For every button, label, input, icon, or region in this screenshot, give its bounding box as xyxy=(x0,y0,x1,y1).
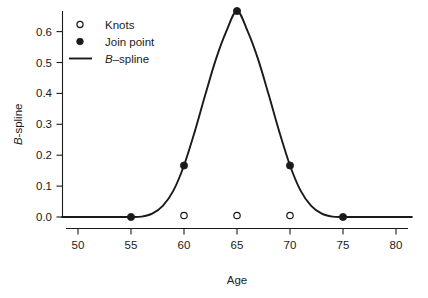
legend-filled-circle-icon xyxy=(77,38,84,45)
knot-marker xyxy=(181,212,187,218)
knot-markers xyxy=(181,212,293,218)
knot-marker xyxy=(234,212,240,218)
bspline-chart: 0.0 0.1 0.2 0.3 0.4 0.5 0.6 50 55 60 65 … xyxy=(0,0,428,298)
y-axis-title-rest: -spline xyxy=(12,104,24,138)
join-point-marker xyxy=(127,213,134,220)
x-tick-label: 75 xyxy=(337,239,350,251)
legend-bspline-rest: –spline xyxy=(113,53,149,65)
legend-label-knots: Knots xyxy=(105,19,135,31)
x-tick-label: 65 xyxy=(231,239,244,251)
x-axis-tick-labels: 50 55 60 65 70 75 80 xyxy=(72,239,403,251)
x-axis-title: Age xyxy=(227,274,247,286)
x-tick-label: 50 xyxy=(72,239,85,251)
y-axis-ticks xyxy=(57,32,63,217)
x-tick-label: 80 xyxy=(390,239,403,251)
join-point-marker xyxy=(339,213,346,220)
x-axis-ticks xyxy=(78,229,396,235)
y-tick-label: 0.0 xyxy=(36,211,52,223)
legend-label-bspline: B–spline xyxy=(105,53,149,65)
y-axis-tick-labels: 0.0 0.1 0.2 0.3 0.4 0.5 0.6 xyxy=(36,26,53,223)
y-tick-label: 0.6 xyxy=(36,26,52,38)
join-point-markers xyxy=(127,7,346,220)
join-point-marker xyxy=(180,162,187,169)
x-tick-label: 70 xyxy=(284,239,297,251)
y-tick-label: 0.3 xyxy=(36,118,52,130)
legend-label-join-point: Join point xyxy=(105,36,155,48)
legend-open-circle-icon xyxy=(77,21,83,27)
knot-marker xyxy=(287,212,293,218)
y-tick-label: 0.1 xyxy=(36,180,52,192)
chart-legend: Knots Join point B–spline xyxy=(69,19,155,65)
chart-figure: 0.0 0.1 0.2 0.3 0.4 0.5 0.6 50 55 60 65 … xyxy=(0,0,428,298)
join-point-marker xyxy=(233,7,240,14)
y-axis-title: B-spline xyxy=(12,104,24,146)
x-tick-label: 55 xyxy=(125,239,138,251)
y-tick-label: 0.4 xyxy=(36,87,53,99)
y-tick-label: 0.5 xyxy=(36,57,52,69)
x-tick-label: 60 xyxy=(178,239,191,251)
join-point-marker xyxy=(286,162,293,169)
y-tick-label: 0.2 xyxy=(36,149,52,161)
